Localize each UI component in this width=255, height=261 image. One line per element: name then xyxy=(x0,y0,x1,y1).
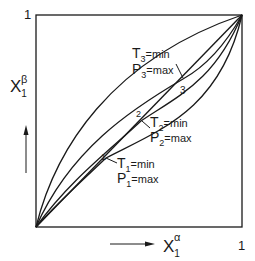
x-axis-arrowhead-icon xyxy=(145,242,155,247)
leader-line-3 xyxy=(176,64,183,78)
point-2-label: 2 xyxy=(136,109,141,119)
leader-line-2 xyxy=(142,121,150,128)
y-max-tick: 1 xyxy=(24,7,31,22)
phase-diagram: 1 X1β X1α 1 1 T1=min P1=max 2 T2=min P2=… xyxy=(0,0,255,261)
x-max-tick: 1 xyxy=(238,238,245,253)
point-2-pressure: P2=max xyxy=(150,129,192,148)
point-3-pressure: P3=max xyxy=(132,61,174,80)
point-1-label: 1 xyxy=(101,152,106,162)
y-axis-arrowhead-icon xyxy=(24,125,29,135)
y-axis-label: X1β xyxy=(10,73,27,99)
point-1-pressure: P1=max xyxy=(117,170,159,189)
point-3-label: 3 xyxy=(180,85,186,96)
x-axis-label: X1α xyxy=(163,231,181,259)
leader-line-1 xyxy=(106,158,117,163)
